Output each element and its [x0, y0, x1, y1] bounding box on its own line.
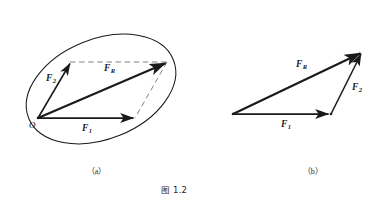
vertex-origin-b [232, 113, 235, 116]
panel-label-b: （b） [303, 168, 322, 176]
plane-ellipse [10, 13, 192, 164]
label-F1-a: F1 [82, 124, 92, 134]
label-FR-b: FR [296, 60, 307, 70]
origin-point-a [37, 117, 40, 120]
vector-FR-a [38, 63, 166, 118]
label-F2-b: F2 [352, 83, 362, 93]
label-origin-a: O [29, 121, 36, 130]
panel-a-group [10, 13, 192, 164]
vector-F2-a [38, 64, 70, 119]
figure-container: F2 FR F1 O （a） FR F2 F1 （b） 图 1.2 [0, 0, 376, 201]
vertex-base-end-b [330, 113, 333, 116]
label-F1-b: F1 [281, 120, 291, 130]
label-F2-a: F2 [46, 74, 56, 84]
panel-label-a: （a） [87, 168, 106, 176]
figure-caption: 图 1.2 [161, 186, 187, 195]
label-FR-a: FR [104, 64, 115, 74]
